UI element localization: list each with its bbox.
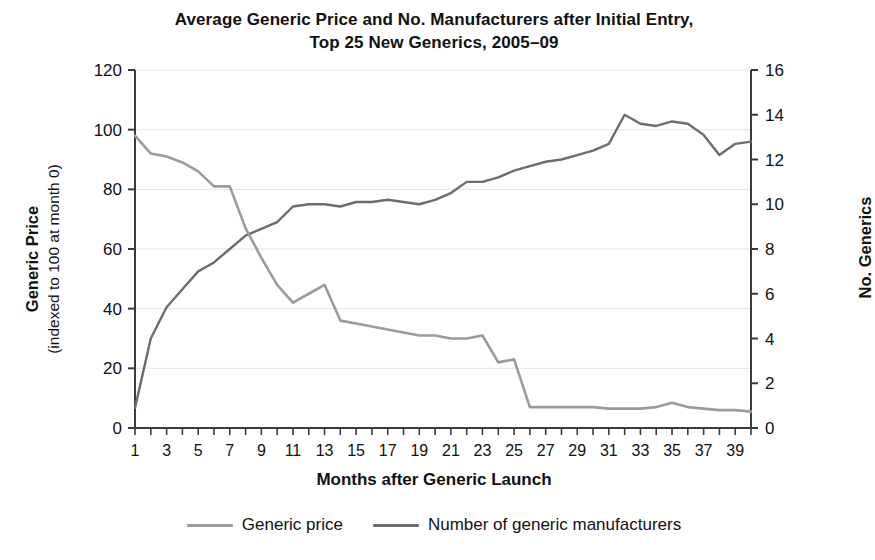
svg-text:25: 25 — [505, 442, 523, 459]
x-axis-ticks: 13579111315171921232527293133353739 — [131, 428, 751, 459]
series-line-manufacturers — [135, 115, 751, 408]
svg-text:6: 6 — [765, 285, 774, 304]
legend-swatch-generic-price — [187, 524, 233, 527]
svg-text:8: 8 — [765, 240, 774, 259]
svg-text:20: 20 — [103, 359, 122, 378]
svg-text:35: 35 — [663, 442, 681, 459]
legend-label-generic-price: Generic price — [242, 515, 343, 535]
svg-text:16: 16 — [765, 61, 784, 80]
svg-text:23: 23 — [474, 442, 492, 459]
svg-text:31: 31 — [600, 442, 618, 459]
svg-text:39: 39 — [726, 442, 744, 459]
y-axis-left-ticks: 020406080100120 — [94, 61, 135, 438]
svg-text:10: 10 — [765, 195, 784, 214]
svg-text:100: 100 — [94, 121, 122, 140]
svg-text:0: 0 — [113, 419, 122, 438]
series-line-price — [135, 136, 751, 412]
svg-text:1: 1 — [131, 442, 140, 459]
svg-text:120: 120 — [94, 61, 122, 80]
svg-text:17: 17 — [379, 442, 397, 459]
svg-text:14: 14 — [765, 106, 784, 125]
legend-label-manufacturers: Number of generic manufacturers — [428, 515, 681, 535]
svg-text:13: 13 — [316, 442, 334, 459]
svg-text:19: 19 — [410, 442, 428, 459]
svg-text:21: 21 — [442, 442, 460, 459]
svg-text:3: 3 — [162, 442, 171, 459]
svg-text:33: 33 — [632, 442, 650, 459]
svg-text:27: 27 — [537, 442, 555, 459]
svg-text:12: 12 — [765, 151, 784, 170]
svg-text:0: 0 — [765, 419, 774, 438]
y-axis-right-ticks: 0246810121416 — [751, 61, 784, 438]
svg-text:4: 4 — [765, 330, 774, 349]
legend-item-manufacturers: Number of generic manufacturers — [373, 515, 681, 535]
svg-text:9: 9 — [257, 442, 266, 459]
svg-text:80: 80 — [103, 180, 122, 199]
svg-text:5: 5 — [194, 442, 203, 459]
svg-text:29: 29 — [568, 442, 586, 459]
svg-text:7: 7 — [225, 442, 234, 459]
svg-text:11: 11 — [285, 442, 302, 459]
svg-text:37: 37 — [695, 442, 713, 459]
svg-text:40: 40 — [103, 300, 122, 319]
svg-text:15: 15 — [347, 442, 365, 459]
legend-swatch-manufacturers — [373, 524, 419, 527]
svg-text:2: 2 — [765, 374, 774, 393]
chart-legend: Generic price Number of generic manufact… — [0, 515, 868, 535]
gridlines — [135, 70, 751, 368]
legend-item-generic-price: Generic price — [187, 515, 343, 535]
svg-text:60: 60 — [103, 240, 122, 259]
